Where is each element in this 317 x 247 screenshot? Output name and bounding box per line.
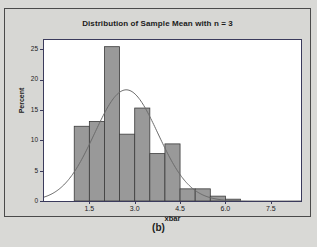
x-tick-label: 3.0 <box>123 205 147 212</box>
figure-container: Distribution of Sample Mean with n = 3 P… <box>0 0 317 247</box>
y-tick-label: 0 <box>20 197 38 204</box>
histogram-bar <box>74 126 89 201</box>
chart-title: Distribution of Sample Mean with n = 3 <box>5 19 310 28</box>
x-tick-label: 6.0 <box>213 205 237 212</box>
y-tick-label: 10 <box>20 136 38 143</box>
histogram-bar <box>104 47 119 201</box>
histogram-bar <box>150 154 165 201</box>
x-tick-label: 4.5 <box>168 205 192 212</box>
histogram-bar <box>135 108 150 201</box>
histogram-bar <box>89 121 104 201</box>
histogram-bar <box>120 134 135 201</box>
chart-panel: Distribution of Sample Mean with n = 3 P… <box>4 8 311 217</box>
figure-caption: (b) <box>0 222 317 233</box>
x-tick-label: 1.5 <box>77 205 101 212</box>
histogram-svg <box>44 40 301 201</box>
y-tick-label: 5 <box>20 167 38 174</box>
plot-area <box>43 39 302 202</box>
histogram-bar <box>180 189 195 201</box>
y-tick-label: 15 <box>20 106 38 113</box>
y-tick-label: 20 <box>20 75 38 82</box>
y-tick-label: 25 <box>20 45 38 52</box>
x-tick-label: 7.5 <box>259 205 283 212</box>
